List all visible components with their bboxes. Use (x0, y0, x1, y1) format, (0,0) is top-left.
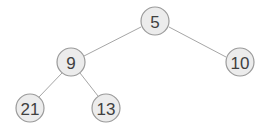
node-label: 5 (150, 13, 159, 32)
tree-node-root: 5 (141, 7, 169, 35)
tree-node-left-child: 9 (57, 48, 85, 76)
edge-9-21 (39, 73, 62, 97)
node-label: 13 (97, 100, 116, 119)
tree-node-left-right: 13 (92, 94, 120, 122)
tree-node-left-left: 21 (16, 94, 44, 122)
tree-node-right-child: 10 (226, 48, 254, 76)
node-label: 10 (231, 54, 250, 73)
node-label: 9 (66, 54, 75, 73)
node-label: 21 (21, 100, 40, 119)
edge-9-13 (80, 73, 98, 96)
edge-5-10 (169, 27, 226, 57)
edge-5-9 (84, 27, 141, 56)
binary-tree-diagram: 5 9 10 21 13 (0, 0, 267, 132)
